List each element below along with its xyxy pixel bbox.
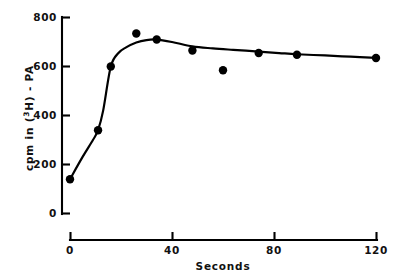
x-tick-label-80: 80: [266, 244, 282, 256]
y-axis-title-prefix: cpm in (: [23, 117, 35, 171]
data-point: [66, 175, 74, 183]
data-point: [255, 49, 263, 57]
y-axis-title-text: cpm in (3H) - PA: [22, 65, 35, 171]
x-tick-label-40: 40: [164, 244, 180, 256]
data-point: [153, 35, 161, 43]
x-tick-label-0: 0: [66, 244, 74, 256]
x-tick-label-120: 120: [364, 244, 388, 256]
chart-figure: 800 600 400 200 0 cpm in (3H) - PA 0 40 …: [0, 0, 403, 275]
data-point: [293, 51, 301, 59]
data-point: [372, 54, 380, 62]
data-point: [188, 46, 196, 54]
y-tick-label-0: 0: [49, 207, 57, 219]
y-tick-label-200: 200: [33, 158, 57, 170]
y-tick-label-400: 400: [33, 109, 57, 121]
data-point: [94, 126, 102, 134]
y-tick-label-800: 800: [33, 11, 57, 23]
y-axis-title-middle: H) - PA: [23, 65, 35, 111]
data-point: [107, 62, 115, 70]
y-axis-title: cpm in (3H) - PA: [22, 65, 35, 171]
data-point: [132, 29, 140, 37]
scatter-plot-canvas: 800 600 400 200 0 cpm in (3H) - PA 0 40 …: [0, 0, 403, 275]
data-point: [219, 66, 227, 74]
x-axis-title: Seconds: [196, 260, 251, 272]
plot-background: [0, 0, 403, 275]
y-tick-label-600: 600: [33, 60, 57, 72]
